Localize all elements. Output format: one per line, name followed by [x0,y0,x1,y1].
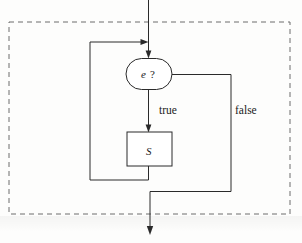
loop-back-arrowhead-icon [141,39,149,45]
entry-arrowhead-icon [146,51,152,59]
exit-arrowhead-icon [147,226,153,235]
flowchart-canvas: e ? S true false [0,0,302,243]
body-node-label: S [146,145,152,157]
condition-node-expr: e [141,68,146,80]
condition-node-question-mark: ? [150,68,155,80]
true-edge-label: true [159,104,177,116]
condition-node [126,59,172,90]
false-edge-label: false [235,104,257,116]
while-loop-flowchart: e ? S true false [0,0,302,243]
true-arrowhead-icon [146,125,152,133]
